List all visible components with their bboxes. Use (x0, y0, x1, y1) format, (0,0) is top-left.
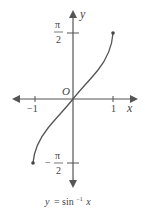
svg-text:π: π (55, 19, 60, 30)
svg-text:π: π (55, 150, 60, 161)
y-axis-label: y (79, 7, 86, 21)
caption: y = sin −1 x (44, 192, 91, 207)
svg-text:−: − (45, 157, 51, 168)
y-tick-label-pi-over-2: π 2 (54, 19, 63, 45)
endpoint-bottom (31, 161, 35, 165)
endpoint-top (111, 31, 115, 35)
origin-label: O (62, 85, 70, 97)
y-tick-label-neg-pi-over-2: − π 2 (45, 150, 63, 176)
x-tick-label-1: 1 (111, 103, 116, 114)
x-tick-label-neg1: −1 (27, 103, 38, 114)
arcsin-graph: y x O −1 1 π 2 − π 2 y = sin −1 x (0, 0, 150, 220)
svg-text:2: 2 (56, 165, 61, 176)
x-axis-label: x (126, 101, 133, 115)
svg-text:2: 2 (56, 34, 61, 45)
